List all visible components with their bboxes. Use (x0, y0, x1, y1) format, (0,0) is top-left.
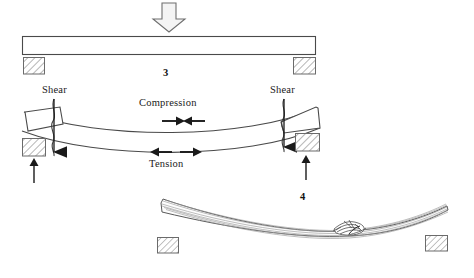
compression-arrow-right (183, 117, 205, 126)
tilted-end-block-left (25, 107, 63, 131)
panel-stress-group (22, 99, 320, 183)
support-block-right (294, 58, 316, 75)
diagram-canvas: 3 Shear Shear Compression Tension 4 (0, 0, 474, 278)
straight-beam (23, 37, 316, 55)
support-block-left (158, 238, 179, 254)
load-arrow (153, 3, 185, 32)
label-shear-left: Shear (42, 85, 67, 96)
support-block-left (23, 139, 46, 157)
panel-3-group (23, 3, 316, 74)
tension-arrow-left (150, 148, 172, 157)
figure-number-3: 3 (163, 68, 168, 79)
support-block-right (426, 236, 448, 252)
reaction-arrow-left (30, 158, 39, 183)
compression-arrow-left (162, 117, 185, 126)
support-block-right (296, 134, 320, 152)
label-compression: Compression (139, 98, 197, 109)
support-block-left (24, 58, 45, 75)
wood-grain (162, 200, 448, 239)
bent-beam-bottom-edge (22, 128, 320, 152)
tension-arrow-right (180, 148, 202, 157)
figure-number-4: 4 (300, 192, 305, 203)
label-shear-right: Shear (270, 85, 295, 96)
tilted-end-block-right (281, 107, 320, 133)
reaction-arrow-right (302, 155, 311, 180)
beam-failure-diagram (0, 0, 474, 278)
label-tension: Tension (149, 159, 184, 170)
panel-4-group (158, 199, 449, 253)
